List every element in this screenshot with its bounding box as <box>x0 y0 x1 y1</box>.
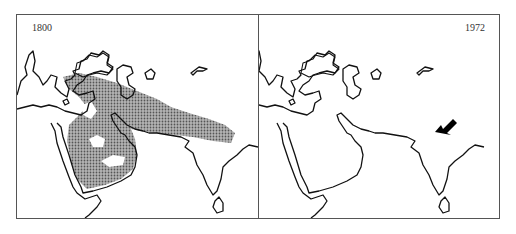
year-label: 1972 <box>465 22 485 33</box>
map-1800 <box>17 15 258 218</box>
map-panel-1972: 1972 <box>259 15 500 218</box>
year-label: 1800 <box>32 22 52 33</box>
map-panel-1800: 1800 <box>17 15 258 218</box>
map-1972 <box>259 15 500 218</box>
historical-range-area <box>63 73 235 189</box>
arrow-icon <box>435 119 457 135</box>
